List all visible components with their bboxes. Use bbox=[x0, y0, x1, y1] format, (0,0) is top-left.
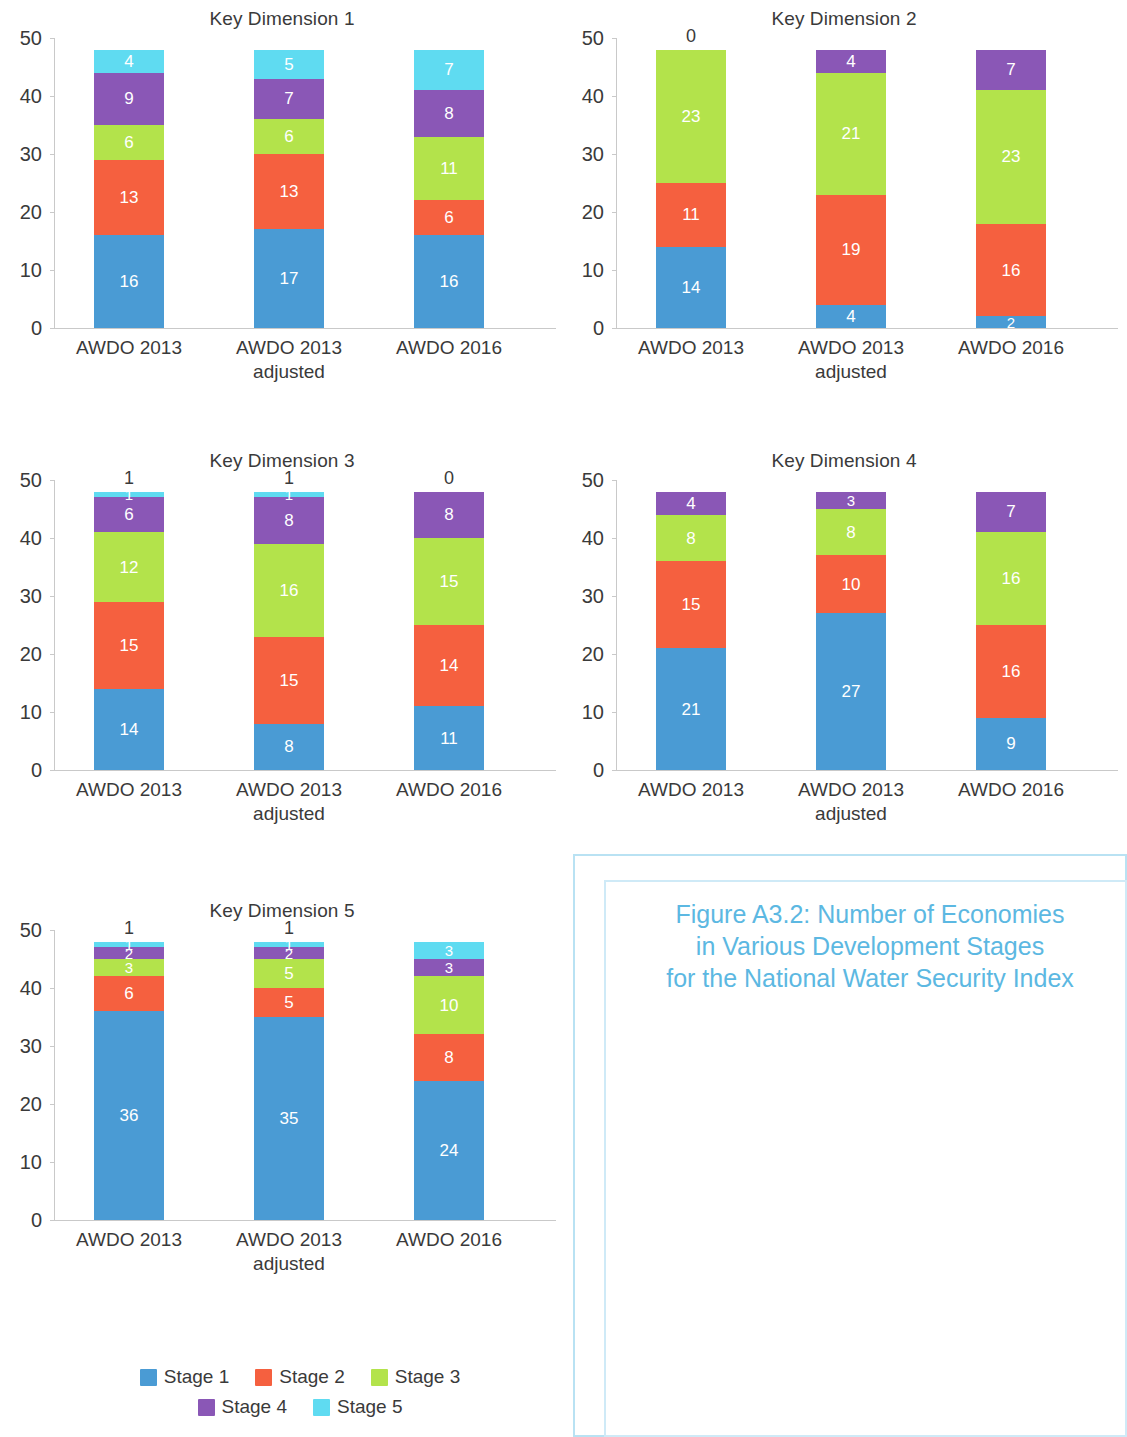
bar-segment[interactable]: 2 bbox=[976, 316, 1046, 328]
bar-segment[interactable]: 1 bbox=[254, 492, 324, 498]
y-axis: 01020304050 bbox=[8, 480, 54, 770]
bar-segment[interactable]: 6 bbox=[94, 125, 164, 160]
y-axis-tick-label: 20 bbox=[2, 201, 42, 224]
bar-segment[interactable]: 15 bbox=[254, 637, 324, 724]
bar-segment[interactable]: 14 bbox=[414, 625, 484, 706]
legend-item-stage-1[interactable]: Stage 1 bbox=[140, 1366, 230, 1388]
y-axis: 01020304050 bbox=[570, 38, 616, 328]
bar-segment[interactable]: 3 bbox=[414, 942, 484, 959]
y-axis-tick-label: 40 bbox=[2, 977, 42, 1000]
bar-segment[interactable]: 12 bbox=[94, 532, 164, 602]
bar-group[interactable]: 216237 bbox=[976, 38, 1046, 328]
chart-panel-2: Key Dimension 20102030405014112304192142… bbox=[570, 8, 1118, 328]
bar-group[interactable]: 271083 bbox=[816, 480, 886, 770]
bar-segment[interactable]: 23 bbox=[976, 90, 1046, 223]
bar-segment[interactable]: 27 bbox=[816, 613, 886, 770]
bar-segment[interactable]: 6 bbox=[414, 200, 484, 235]
bar-segment[interactable]: 4 bbox=[816, 50, 886, 73]
bar-segment[interactable]: 21 bbox=[656, 648, 726, 770]
legend-item-stage-2[interactable]: Stage 2 bbox=[255, 1366, 345, 1388]
bar-group[interactable]: 1713675 bbox=[254, 38, 324, 328]
bar-group[interactable]: 3663211 bbox=[94, 930, 164, 1220]
bar-segment[interactable]: 10 bbox=[414, 976, 484, 1034]
bar-segment[interactable]: 1 bbox=[94, 492, 164, 498]
bar-segment[interactable]: 8 bbox=[414, 1034, 484, 1080]
bar-segment[interactable]: 1 bbox=[254, 942, 324, 948]
bar-segment[interactable]: 6 bbox=[254, 119, 324, 154]
bar-segment[interactable]: 16 bbox=[254, 544, 324, 637]
bar-segment[interactable]: 7 bbox=[976, 50, 1046, 91]
bar-segment[interactable]: 10 bbox=[816, 555, 886, 613]
y-axis-tick-label: 30 bbox=[564, 143, 604, 166]
bar-segment[interactable]: 8 bbox=[816, 509, 886, 555]
bar-segment[interactable]: 16 bbox=[976, 224, 1046, 317]
bar-segment[interactable]: 5 bbox=[254, 50, 324, 79]
inset-title-line-3: for the National Water Security Index bbox=[620, 962, 1120, 994]
chart-title: Key Dimension 2 bbox=[570, 8, 1118, 30]
bar-group[interactable]: 11141580 bbox=[414, 480, 484, 770]
bar-segment[interactable]: 13 bbox=[254, 154, 324, 229]
bar-segment[interactable]: 8 bbox=[656, 515, 726, 561]
bar-segment[interactable]: 7 bbox=[414, 50, 484, 91]
bar-total-label: 1 bbox=[94, 918, 164, 939]
bar-segment[interactable]: 5 bbox=[254, 959, 324, 988]
bar-segment[interactable]: 3 bbox=[414, 959, 484, 976]
bar-segment[interactable]: 36 bbox=[94, 1011, 164, 1220]
bar-segment[interactable]: 4 bbox=[656, 492, 726, 515]
bar-segment[interactable]: 11 bbox=[414, 706, 484, 770]
bar-segment[interactable]: 3 bbox=[816, 492, 886, 509]
bar-segment[interactable]: 11 bbox=[656, 183, 726, 247]
bar-group[interactable]: 3555211 bbox=[254, 930, 324, 1220]
bar-segment[interactable]: 35 bbox=[254, 1017, 324, 1220]
bar-segment[interactable]: 11 bbox=[414, 137, 484, 201]
bar-segment[interactable]: 13 bbox=[94, 160, 164, 235]
bar-segment[interactable]: 16 bbox=[94, 235, 164, 328]
bar-group[interactable]: 81516811 bbox=[254, 480, 324, 770]
bar-segment[interactable]: 4 bbox=[816, 305, 886, 328]
bar-segment[interactable]: 6 bbox=[94, 976, 164, 1011]
bar-segment[interactable]: 17 bbox=[254, 229, 324, 328]
y-axis-tick-label: 0 bbox=[2, 1209, 42, 1232]
x-axis-tick-label: adjusted bbox=[214, 1252, 364, 1276]
bar-segment[interactable]: 9 bbox=[976, 718, 1046, 770]
x-axis-tick-label: AWDO 2016 bbox=[936, 778, 1086, 802]
bar-group[interactable]: 1661187 bbox=[414, 38, 484, 328]
legend-item-stage-5[interactable]: Stage 5 bbox=[313, 1396, 403, 1418]
bar-segment[interactable]: 16 bbox=[414, 235, 484, 328]
x-axis-tick-label: AWDO 2016 bbox=[374, 778, 524, 802]
bar-segment[interactable]: 23 bbox=[656, 50, 726, 183]
bar-segment[interactable]: 16 bbox=[976, 625, 1046, 718]
bar-segment[interactable]: 8 bbox=[414, 492, 484, 538]
bar-group[interactable]: 419214 bbox=[816, 38, 886, 328]
bar-group[interactable]: 141512611 bbox=[94, 480, 164, 770]
bar-segment[interactable]: 14 bbox=[656, 247, 726, 328]
bar-segment[interactable]: 8 bbox=[414, 90, 484, 136]
bar-segment[interactable]: 7 bbox=[976, 492, 1046, 533]
bar-segment[interactable]: 8 bbox=[254, 724, 324, 770]
bar-group[interactable]: 2481033 bbox=[414, 930, 484, 1220]
bar-segment[interactable]: 16 bbox=[976, 532, 1046, 625]
bar-segment[interactable]: 21 bbox=[816, 73, 886, 195]
bar-segment[interactable]: 5 bbox=[254, 988, 324, 1017]
bar-segment[interactable]: 19 bbox=[816, 195, 886, 305]
bar-segment[interactable]: 1 bbox=[94, 942, 164, 948]
y-axis-tick-label: 30 bbox=[564, 585, 604, 608]
bar-group[interactable]: 1613694 bbox=[94, 38, 164, 328]
bar-group[interactable]: 211584 bbox=[656, 480, 726, 770]
x-axis-tick-label: AWDO 2013 bbox=[214, 1228, 364, 1252]
chart-panel-3: Key Dimension 30102030405014151261181516… bbox=[8, 450, 556, 770]
bar-segment[interactable]: 8 bbox=[254, 497, 324, 543]
bar-segment[interactable]: 7 bbox=[254, 79, 324, 120]
legend-item-stage-4[interactable]: Stage 4 bbox=[198, 1396, 288, 1418]
bar-segment[interactable]: 9 bbox=[94, 73, 164, 125]
x-axis-tick-label: AWDO 2013 bbox=[54, 778, 204, 802]
bar-segment[interactable]: 24 bbox=[414, 1081, 484, 1220]
bar-segment[interactable]: 15 bbox=[94, 602, 164, 689]
bar-group[interactable]: 1411230 bbox=[656, 38, 726, 328]
bar-segment[interactable]: 15 bbox=[656, 561, 726, 648]
bar-group[interactable]: 916167 bbox=[976, 480, 1046, 770]
bar-segment[interactable]: 14 bbox=[94, 689, 164, 770]
legend-item-stage-3[interactable]: Stage 3 bbox=[371, 1366, 461, 1388]
bar-segment[interactable]: 4 bbox=[94, 50, 164, 73]
bar-segment[interactable]: 15 bbox=[414, 538, 484, 625]
